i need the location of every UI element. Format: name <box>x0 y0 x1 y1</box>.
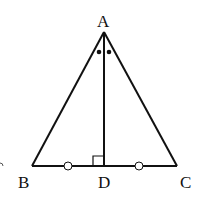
label-B: B <box>18 173 29 192</box>
angle-dot-left <box>97 50 102 55</box>
label-C: C <box>180 173 191 192</box>
equal-mark-DC <box>135 162 143 170</box>
segment-AB <box>32 32 104 166</box>
diagram-svg: A B D C <box>0 0 215 209</box>
segment-AC <box>104 32 177 166</box>
right-angle-mark <box>93 156 104 166</box>
label-A: A <box>97 12 110 31</box>
label-D: D <box>98 173 110 192</box>
equal-mark-BD <box>64 162 72 170</box>
triangle-diagram: A B D C <box>0 0 215 209</box>
stray-mark <box>0 163 3 166</box>
angle-dot-right <box>107 50 112 55</box>
